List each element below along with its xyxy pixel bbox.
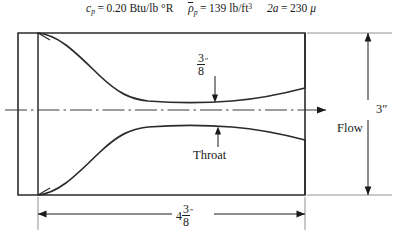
fraction-numerator: 3 <box>182 203 190 216</box>
upper-nozzle-contour <box>38 33 305 103</box>
throat-callout-leader <box>215 127 221 148</box>
fraction-three-eighths: 3 8 <box>197 52 205 78</box>
flow-annotation-label: Flow <box>337 122 363 135</box>
height-dimension-arrowhead-top <box>365 33 372 42</box>
height-dimension-arrowhead-bottom <box>365 187 372 196</box>
flow-direction-arrowhead <box>317 106 326 113</box>
fraction-three-eighths: 3 8 <box>182 203 190 229</box>
overall-height-dimension-label: 3″ <box>376 103 387 116</box>
overall-length-dimension <box>38 197 305 230</box>
fraction-numerator: 3 <box>197 52 205 65</box>
fraction-denominator: 8 <box>182 216 190 228</box>
throat-height-dimension-label: 3 8 ″ <box>197 52 208 78</box>
fraction-denominator: 8 <box>197 65 205 77</box>
length-dimension-arrowhead-left <box>38 211 47 218</box>
inch-mark: ″ <box>190 208 193 217</box>
throat-height-dimension-leader <box>212 76 218 103</box>
figure-page: cp=0.20 Btu/lb °R ρp=139 lb/ft3 2a=230 μ <box>0 0 402 241</box>
overall-length-dimension-label: 4 3 8 ″ <box>173 203 196 229</box>
duct-outer-outline <box>18 33 305 195</box>
centerline-axis <box>5 106 326 113</box>
throat-annotation-label: Throat <box>193 149 226 162</box>
throat-callout-arrowhead <box>215 127 221 135</box>
lower-nozzle-contour <box>38 126 305 196</box>
inch-mark: ″ <box>205 57 208 66</box>
length-dimension-arrowhead-right <box>297 211 306 218</box>
